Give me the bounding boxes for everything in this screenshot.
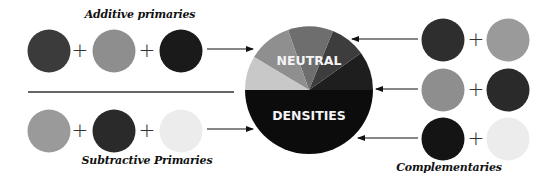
complementary-2-swatch-a <box>422 69 465 112</box>
subtractive-swatch-1 <box>28 110 71 153</box>
color-mixing-diagram: NEUTRAL DENSITIES Additive primaries Sub… <box>0 0 560 184</box>
complementary-3-swatch-b <box>487 118 530 161</box>
subtractive-swatch-3 <box>160 110 203 153</box>
subtractive-primaries-label: Subtractive Primaries <box>82 154 213 167</box>
complementary-1-swatch-b <box>487 19 530 62</box>
complementary-3-swatch-a <box>422 118 465 161</box>
plus-icon: + <box>468 29 485 49</box>
plus-icon: + <box>139 120 156 140</box>
additive-primaries-label: Additive primaries <box>85 8 196 21</box>
complementaries-label: Complementaries <box>396 161 502 174</box>
additive-swatch-3 <box>160 30 203 73</box>
complementary-2-swatch-b <box>487 69 530 112</box>
complementary-1-swatch-a <box>422 19 465 62</box>
additive-swatch-1 <box>28 30 71 73</box>
neutral-densities-pie: NEUTRAL DENSITIES <box>245 26 373 154</box>
plus-icon: + <box>139 40 156 60</box>
plus-icon: + <box>72 120 89 140</box>
plus-icon: + <box>468 79 485 99</box>
pie-label-densities: DENSITIES <box>272 108 346 123</box>
subtractive-swatch-2 <box>93 110 136 153</box>
additive-swatch-2 <box>93 30 136 73</box>
plus-icon: + <box>72 40 89 60</box>
pie-label-neutral: NEUTRAL <box>277 53 342 68</box>
plus-icon: + <box>468 128 485 148</box>
